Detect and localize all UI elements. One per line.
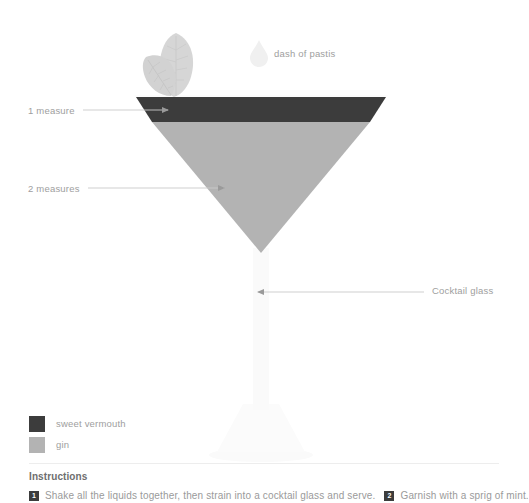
callout-label-dash-of-pastis: dash of pastis [274,48,335,59]
step-badge-1: 1 [29,491,39,501]
droplet-icon [250,40,268,67]
legend: sweet vermouth gin [29,415,126,457]
sweet-vermouth-layer [136,97,386,122]
legend-label-sweet-vermouth: sweet vermouth [56,418,126,429]
glass-base-flare [217,404,305,452]
glass-stem [253,248,269,410]
step-badge-2: 2 [384,491,394,501]
step-text-2: Garnish with a sprig of mint. [400,490,528,501]
instructions-steps: 1 Shake all the liquids together, then s… [29,490,529,501]
legend-label-gin: gin [56,439,69,450]
instruction-step-2: 2 Garnish with a sprig of mint. [384,490,528,501]
callout-label-measure-1: 1 measure [28,105,75,116]
legend-swatch-sweet-vermouth [29,416,45,432]
gin-layer [152,122,370,253]
mint-leaves-icon [143,33,193,97]
callout-label-measure-2: 2 measures [28,183,80,194]
instructions-title: Instructions [29,471,87,482]
legend-item-gin: gin [29,436,126,453]
callout-label-cocktail-glass: Cocktail glass [432,285,493,296]
step-text-1: Shake all the liquids together, then str… [45,490,375,501]
instructions-divider [29,463,499,464]
legend-item-sweet-vermouth: sweet vermouth [29,415,126,432]
legend-swatch-gin [29,437,45,453]
instruction-step-1: 1 Shake all the liquids together, then s… [29,490,375,501]
